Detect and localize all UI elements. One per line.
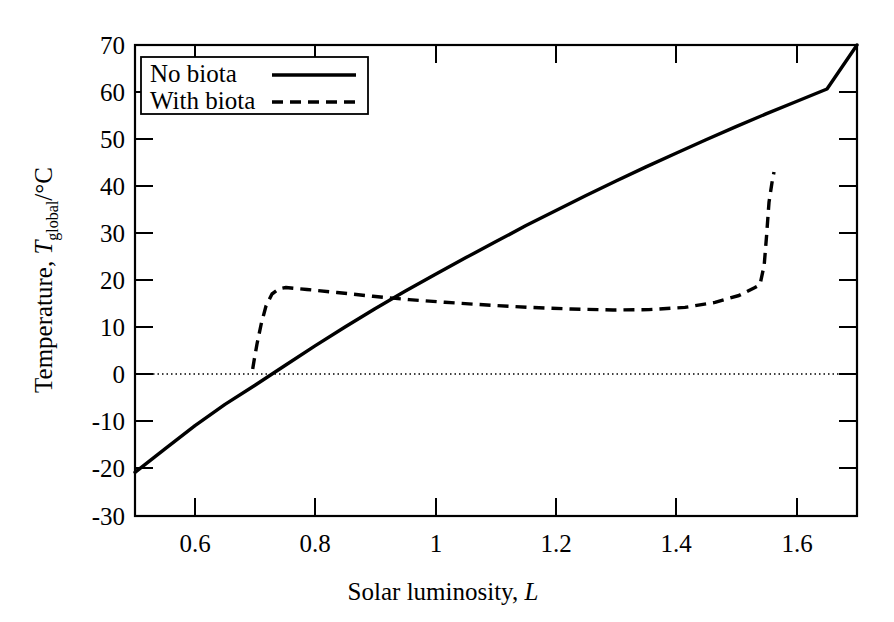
y-tick-label: -20 — [92, 455, 125, 482]
legend: No biota With biota — [141, 57, 368, 114]
chart-figure: 70 60 50 40 30 20 10 0 -10 -20 -30 0.6 0… — [0, 0, 894, 622]
y-tick-label: -30 — [92, 503, 125, 530]
y-axis-title-units: /°C — [30, 167, 57, 201]
y-tick-label: 0 — [113, 361, 126, 388]
x-tick-label: 0.6 — [179, 530, 210, 557]
y-tick-label: 30 — [100, 220, 125, 247]
x-tick-label: 1.4 — [660, 530, 692, 557]
y-tick-label: 50 — [100, 126, 125, 153]
legend-label-with-biota: With biota — [150, 87, 255, 114]
y-axis-title-subscript: global — [44, 200, 62, 241]
x-axis-title-text: Solar luminosity, — [348, 578, 519, 605]
x-tick-label: 0.8 — [299, 530, 330, 557]
y-tick-label: 10 — [100, 314, 125, 341]
x-tick-label: 1.6 — [781, 530, 812, 557]
svg-text:Solar luminosity, L: Solar luminosity, L — [348, 578, 539, 605]
y-axis-title-text: Temperature, — [30, 261, 57, 393]
x-axis-title-symbol: L — [523, 578, 538, 605]
temperature-vs-luminosity-chart: 70 60 50 40 30 20 10 0 -10 -20 -30 0.6 0… — [0, 0, 894, 622]
y-tick-label: 70 — [100, 32, 125, 59]
y-tick-label: -10 — [92, 408, 125, 435]
x-axis-title: Solar luminosity, L — [348, 578, 539, 605]
y-tick-label: 60 — [100, 79, 125, 106]
x-tick-label: 1.2 — [540, 530, 571, 557]
y-tick-label: 40 — [100, 173, 125, 200]
y-tick-label: 20 — [100, 267, 125, 294]
legend-label-no-biota: No biota — [150, 60, 237, 87]
x-tick-label: 1 — [430, 530, 443, 557]
